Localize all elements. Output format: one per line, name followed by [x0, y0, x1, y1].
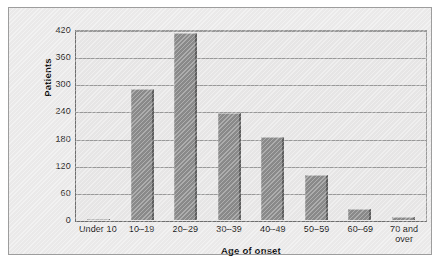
x-tick-line: 70 and — [382, 224, 426, 234]
bar-30-39 — [218, 113, 241, 220]
x-tick-50-59: 50–59 — [295, 224, 339, 244]
bar-slot — [77, 32, 121, 220]
bar-group — [77, 32, 425, 220]
x-tick-40-49: 40–49 — [251, 224, 295, 244]
y-tick-120: 120 — [31, 161, 71, 171]
x-tick-line: 30–39 — [207, 224, 251, 234]
x-axis-title: Age of onset — [76, 245, 426, 256]
x-tick-10-19: 10–19 — [120, 224, 164, 244]
bar-slot — [164, 32, 208, 220]
bar-50-59 — [305, 175, 328, 220]
x-tick-under-10: Under 10 — [76, 224, 120, 244]
bar-slot — [121, 32, 165, 220]
x-tick-70-and-over: 70 and over — [382, 224, 426, 244]
x-tick-20-29: 20–29 — [164, 224, 208, 244]
x-tick-line: 60–69 — [339, 224, 383, 234]
x-tick-line: over — [382, 234, 426, 244]
bar-slot — [382, 32, 426, 220]
bar-slot — [208, 32, 252, 220]
x-tick-line: Under 10 — [76, 224, 120, 234]
y-tick-0: 0 — [31, 215, 71, 225]
bar-20-29 — [174, 33, 197, 220]
bar-slot — [251, 32, 295, 220]
x-tick-line: 50–59 — [295, 224, 339, 234]
x-axis-tick-labels: Under 10 10–19 20–29 30–39 40–49 50–59 6… — [76, 224, 426, 244]
chart-panel: 420 360 300 240 180 120 60 0 Patients Un… — [8, 7, 432, 255]
bar-40-49 — [261, 137, 284, 220]
y-axis-title: Patients — [42, 18, 53, 138]
bar-slot — [295, 32, 339, 220]
bar-10-19 — [131, 89, 154, 220]
x-tick-line: 10–19 — [120, 224, 164, 234]
y-tick-60: 60 — [31, 188, 71, 198]
bar-70-and-over — [392, 217, 415, 220]
bar-under-10 — [87, 219, 110, 220]
bar-60-69 — [348, 209, 371, 220]
x-tick-30-39: 30–39 — [207, 224, 251, 244]
bar-chart-figure: 420 360 300 240 180 120 60 0 Patients Un… — [0, 0, 442, 264]
x-tick-60-69: 60–69 — [339, 224, 383, 244]
plot-area — [75, 30, 427, 222]
bar-slot — [338, 32, 382, 220]
x-tick-line: 40–49 — [251, 224, 295, 234]
x-tick-line: 20–29 — [164, 224, 208, 234]
